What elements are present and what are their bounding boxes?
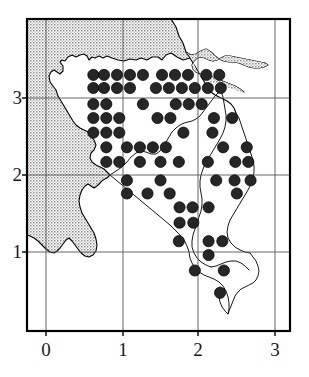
distribution-dot [156, 69, 167, 80]
distribution-dot [201, 69, 212, 80]
distribution-dot [182, 69, 193, 80]
distribution-dot [111, 82, 122, 93]
distribution-dot [163, 82, 174, 93]
distribution-dot [203, 202, 214, 213]
distribution-dot [176, 82, 187, 93]
distribution-dot [174, 202, 185, 213]
distribution-dot [188, 217, 199, 228]
distribution-dot [207, 127, 218, 138]
distribution-dot [121, 142, 132, 153]
map-plot [0, 0, 309, 377]
distribution-dot [196, 99, 207, 110]
distribution-dot [189, 82, 200, 93]
distribution-map-figure: 0 1 2 3 1 2 3 [0, 0, 309, 377]
map-body [27, 19, 290, 331]
distribution-dot [137, 99, 148, 110]
distribution-dot [160, 142, 171, 153]
distribution-dot [137, 69, 148, 80]
distribution-dot [155, 175, 166, 186]
distribution-dot [173, 156, 184, 167]
distribution-dot [218, 265, 229, 276]
distribution-dot [101, 112, 112, 123]
distribution-dot [101, 156, 112, 167]
distribution-dot [124, 69, 135, 80]
y-tick-label-1: 1 [2, 242, 22, 261]
distribution-dot [187, 202, 198, 213]
distribution-dot [88, 69, 99, 80]
distribution-dot [241, 142, 252, 153]
distribution-dot [178, 127, 189, 138]
distribution-dot [101, 142, 112, 153]
distribution-dot [211, 175, 222, 186]
distribution-dot [121, 175, 132, 186]
x-tick-label-3: 3 [263, 340, 287, 359]
distribution-dot [152, 112, 163, 123]
distribution-dot [164, 188, 175, 199]
distribution-dot [202, 156, 213, 167]
distribution-dot [114, 112, 125, 123]
x-tick-label-2: 2 [186, 340, 210, 359]
distribution-dot [98, 82, 109, 93]
distribution-dot [214, 287, 225, 298]
distribution-dot [202, 82, 213, 93]
distribution-dot [243, 156, 254, 167]
distribution-dot [165, 112, 176, 123]
distribution-dot [230, 156, 241, 167]
x-tick-label-0: 0 [34, 340, 58, 359]
distribution-dot [231, 188, 242, 199]
distribution-dot [203, 236, 214, 247]
y-tick-label-2: 2 [2, 165, 22, 184]
distribution-dot [114, 156, 125, 167]
distribution-dot [88, 127, 99, 138]
distribution-dot [208, 112, 219, 123]
y-tick-label-3: 3 [2, 88, 22, 107]
distribution-dot [121, 188, 132, 199]
distribution-dot [245, 175, 256, 186]
distribution-dot [111, 69, 122, 80]
distribution-dot [229, 175, 240, 186]
distribution-dot [101, 127, 112, 138]
distribution-dot [142, 188, 153, 199]
distribution-dot [217, 142, 228, 153]
distribution-dot [189, 265, 200, 276]
distribution-dot [203, 249, 214, 260]
distribution-dot [88, 82, 99, 93]
distribution-dot [88, 99, 99, 110]
distribution-dot [124, 82, 135, 93]
distribution-dot [215, 82, 226, 93]
distribution-dot [174, 217, 185, 228]
distribution-dot [101, 99, 112, 110]
distribution-dot [214, 69, 225, 80]
x-tick-label-1: 1 [111, 340, 135, 359]
distribution-dot [217, 236, 228, 247]
distribution-dot [98, 69, 109, 80]
distribution-dot [150, 82, 161, 93]
distribution-dot [155, 156, 166, 167]
distribution-dot [114, 127, 125, 138]
distribution-dot [227, 112, 238, 123]
distribution-dot [169, 69, 180, 80]
distribution-dot [134, 142, 145, 153]
distribution-dot [147, 142, 158, 153]
distribution-dot [173, 236, 184, 247]
distribution-dot [170, 99, 181, 110]
distribution-dot [134, 156, 145, 167]
distribution-dot [88, 112, 99, 123]
distribution-dot [183, 99, 194, 110]
